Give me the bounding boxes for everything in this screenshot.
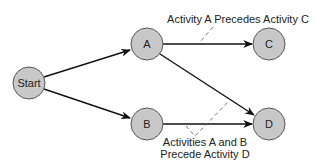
precedence-diagram: Start A B C D Activity A Precedes Activi…	[0, 0, 316, 168]
edge-start-to-b	[44, 89, 130, 118]
node-c: C	[253, 28, 285, 60]
node-a-label: A	[143, 38, 151, 50]
node-a: A	[131, 28, 163, 60]
edge-a-to-d	[160, 54, 254, 115]
node-b-label: B	[143, 118, 150, 130]
annotation-a-precedes-c: Activity A Precedes Activity C	[167, 13, 309, 25]
node-c-label: C	[265, 38, 273, 50]
edge-start-to-a	[44, 50, 130, 77]
annotation-ab-precede-d-line2: Precede Activity D	[160, 148, 249, 160]
node-d-label: D	[265, 118, 273, 130]
leader-a-precedes-c	[200, 27, 213, 42]
annotation-ab-precede-d-line1: Activities A and B	[163, 136, 247, 148]
node-b: B	[131, 108, 163, 140]
leader-ab-precede-d	[186, 101, 229, 136]
node-d: D	[253, 108, 285, 140]
node-start: Start	[13, 67, 45, 99]
node-start-label: Start	[17, 77, 40, 89]
